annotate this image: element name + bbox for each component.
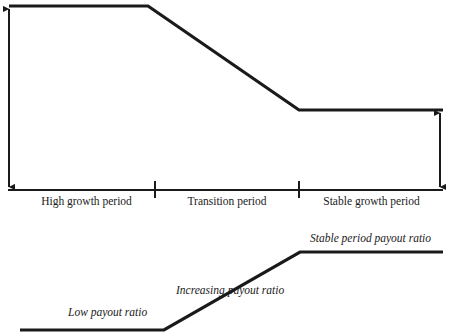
period-label-high-growth: High growth period — [18, 196, 155, 208]
growth-rate-diagram — [8, 6, 443, 198]
payout-label-low: Low payout ratio — [68, 307, 147, 319]
expected-growth-rate-line — [9, 6, 443, 110]
dividend-growth-payout-figure: High growth period Transition period Sta… — [0, 0, 449, 336]
period-label-stable-growth: Stable growth period — [299, 196, 444, 208]
payout-label-stable-period: Stable period payout ratio — [310, 233, 431, 245]
payout-label-increasing: Increasing payout ratio — [176, 285, 284, 297]
period-label-transition: Transition period — [155, 196, 299, 208]
